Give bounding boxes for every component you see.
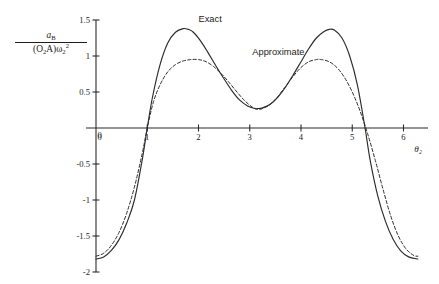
axes-group <box>86 20 428 272</box>
x-tick-label: 3 <box>248 132 252 142</box>
y-tick-label: 1.5 <box>79 15 90 25</box>
y-tick-label: 1 <box>86 51 90 61</box>
y-tick-label: -0.5 <box>76 159 90 169</box>
y-tick-label: -1 <box>83 195 90 205</box>
x-tick-label: 5 <box>350 132 354 142</box>
y-tick-label: 0 <box>98 130 102 140</box>
chart-figure: 0123456 1.510.50-0.5-1-1.5-2 ExactApprox… <box>0 0 439 284</box>
data-curves <box>96 28 418 259</box>
y-axis-ticks: 1.510.50-0.5-1-1.5-2 <box>76 15 101 277</box>
x-tick-label: 2 <box>196 132 200 142</box>
series-label-exact: Exact <box>199 14 223 24</box>
y-tick-label: -2 <box>83 267 90 277</box>
series-label-approximate: Approximate <box>252 47 304 57</box>
x-axis-title: θ₂ <box>414 144 422 154</box>
y-tick-label: -1.5 <box>76 231 90 241</box>
series-annotations: ExactApproximate <box>199 14 305 56</box>
x-tick-label: 4 <box>299 132 304 142</box>
x-tick-label: 6 <box>401 132 406 142</box>
x-axis-ticks: 0123456 <box>98 125 407 143</box>
y-tick-label: 0.5 <box>79 87 90 97</box>
